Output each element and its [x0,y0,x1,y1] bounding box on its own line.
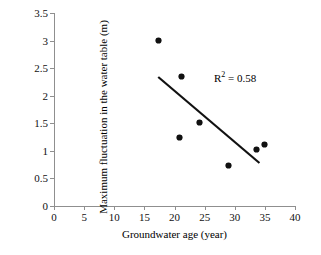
x-axis-tick [235,206,236,210]
y-axis-tick [50,178,54,179]
y-axis-tick-label: 1.5 [34,118,48,129]
x-axis-tick-label: 20 [169,212,180,223]
x-axis-title: Groundwater age (year) [54,228,295,240]
x-axis-tick-label: 35 [259,212,270,223]
y-axis-tick [50,151,54,152]
x-axis-tick [144,206,145,210]
data-point [226,163,231,168]
x-axis-tick-label: 0 [51,212,57,223]
r-squared-annotation: R2 = 0.58 [214,69,256,84]
x-axis-tick-label: 25 [199,212,210,223]
y-axis-tick [50,13,54,14]
x-axis-tick-label: 40 [290,212,301,223]
y-axis-tick-label: 0 [43,201,49,212]
plot-area: 00.511.522.533.50510152025303540 [54,13,295,206]
r-squared-value: = 0.58 [225,72,256,84]
data-point [254,147,259,152]
x-axis-tick-label: 5 [81,212,87,223]
y-axis-tick [50,96,54,97]
x-axis-tick [54,206,55,210]
y-axis-tick [50,68,54,69]
y-axis-tick-label: 2 [43,90,49,101]
x-axis-tick [175,206,176,210]
x-axis-tick [84,206,85,210]
y-axis-tick-label: 3.5 [34,8,48,19]
x-axis-tick [205,206,206,210]
y-axis-tick [50,41,54,42]
x-axis-tick [265,206,266,210]
data-point [197,120,202,125]
y-axis-tick [50,123,54,124]
y-axis-tick-label: 0.5 [34,173,48,184]
y-axis-tick-label: 3 [43,35,49,46]
regression-trendline [54,13,295,206]
x-axis-tick-label: 15 [139,212,150,223]
x-axis-tick-label: 10 [109,212,120,223]
x-axis-tick [114,206,115,210]
y-axis-tick-label: 1 [43,145,49,156]
scatter-chart-figure: 00.511.522.533.50510152025303540 Maximum… [0,0,321,255]
y-axis-tick-label: 2.5 [34,63,48,74]
x-axis-tick-label: 30 [229,212,240,223]
x-axis-tick [295,206,296,210]
y-axis-title: Maximum fluctuation in the water table (… [97,2,109,232]
